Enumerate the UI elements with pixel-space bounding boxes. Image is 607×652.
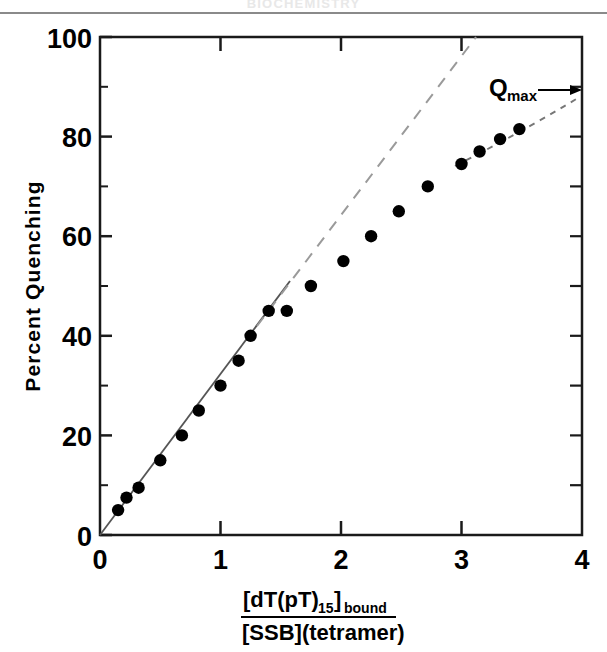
data-point (232, 355, 244, 367)
y-tick-label-20: 20 (62, 422, 92, 452)
figure-root: BIOCHEMISTRY (0, 0, 607, 652)
data-point (494, 133, 506, 145)
y-tick-label-40: 40 (62, 322, 92, 352)
data-point (305, 280, 317, 292)
x-tick-label-3: 3 (454, 545, 469, 575)
data-point (214, 379, 226, 391)
x-tick-label-4: 4 (574, 545, 589, 575)
data-point (422, 180, 434, 192)
qmax-annotation: Q max (489, 74, 582, 104)
data-point (393, 205, 405, 217)
x-tick-label-0: 0 (92, 545, 107, 575)
y-tick-label-100: 100 (47, 24, 92, 54)
data-point (112, 504, 124, 516)
plot-frame (100, 37, 582, 535)
y-axis-title: Percent Quenching (21, 180, 44, 391)
data-point (154, 454, 166, 466)
x-axis-numerator-prefix: [dT(pT) (243, 587, 319, 612)
y-tick-label-0: 0 (77, 522, 92, 552)
x-tick-label-2: 2 (333, 545, 348, 575)
y-tick-label-80: 80 (62, 123, 92, 153)
data-point-group (112, 123, 526, 516)
quenching-scatter-chart: 0 20 40 60 80 100 0 1 2 3 4 Percent Quen… (0, 0, 607, 652)
x-tick-label-1: 1 (213, 545, 228, 575)
x-axis-denominator: [SSB](tetramer) (242, 620, 405, 645)
x-axis-major-ticks (221, 521, 462, 535)
data-point (513, 123, 525, 135)
qmax-label: Q (489, 74, 508, 101)
right-axis-ticks (570, 87, 582, 485)
data-point (473, 145, 485, 157)
data-point (365, 230, 377, 242)
qmax-subscript: max (507, 87, 538, 104)
data-point (120, 491, 132, 503)
data-point (263, 305, 275, 317)
x-axis-numerator-bracket: ] (334, 587, 341, 612)
data-point (132, 482, 144, 494)
data-point (176, 429, 188, 441)
x-axis-top-ticks (221, 37, 462, 51)
x-axis-title: [dT(pT) 15 ] bound [SSB](tetramer) (241, 587, 405, 645)
data-point (281, 305, 293, 317)
data-point (244, 330, 256, 342)
x-axis-numerator-sub2: bound (344, 600, 387, 616)
x-axis-numerator-subscript: 15 (318, 600, 334, 616)
y-tick-label-60: 60 (62, 222, 92, 252)
data-point (455, 158, 467, 170)
data-point (193, 404, 205, 416)
data-point (337, 255, 349, 267)
